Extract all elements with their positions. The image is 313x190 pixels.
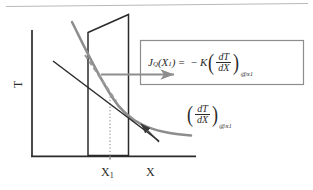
temperature-profile-curve <box>72 22 191 136</box>
axes-group <box>31 30 196 157</box>
equation-box-frame <box>141 41 304 85</box>
thermal-conduction-diagram: T X X1 JQ(X1) = −K ( dT dX ) @x1 ( dT dX <box>0 0 313 190</box>
cross-section-plane <box>88 15 129 156</box>
tangent-line <box>53 61 159 141</box>
diagram-canvas <box>0 0 313 190</box>
top-divider-rule <box>6 4 308 7</box>
